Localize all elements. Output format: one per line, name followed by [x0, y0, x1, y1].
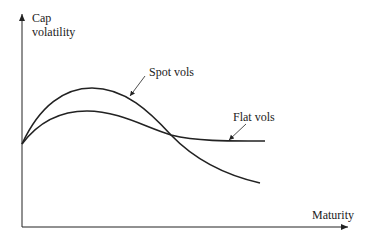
flat-vols-arrow [229, 124, 246, 140]
cap-volatility-chart: Cap volatility Maturity Spot vols Flat v… [0, 0, 366, 243]
spot-vols-arrow [130, 76, 145, 96]
flat-vols-curve [22, 111, 265, 144]
y-axis-label-line1: Cap [32, 11, 51, 25]
chart-svg: Cap volatility Maturity Spot vols Flat v… [0, 0, 366, 243]
spot-vols-curve [22, 88, 260, 183]
spot-vols-label: Spot vols [149, 65, 194, 79]
flat-vols-label: Flat vols [233, 110, 275, 124]
x-axis-label: Maturity [312, 208, 354, 222]
y-axis-label-line2: volatility [32, 25, 75, 39]
